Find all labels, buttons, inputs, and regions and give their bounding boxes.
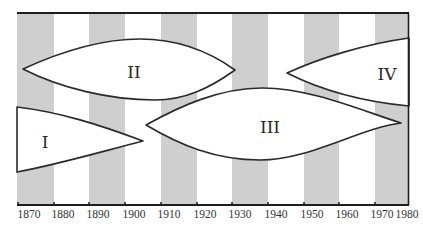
era-timeline-diagram: I II III IV 1870 1880 1890 1900 1910 192… <box>0 0 423 228</box>
tick-label-1930: 1930 <box>229 208 252 220</box>
x-axis: 1870 1880 1890 1900 1910 1920 1930 1940 … <box>17 202 419 220</box>
era-label-iii: III <box>260 117 280 137</box>
tick-label-1900: 1900 <box>123 208 146 220</box>
era-label-ii: II <box>127 62 140 82</box>
tick-label-1870: 1870 <box>18 208 41 220</box>
era-label-iv: IV <box>378 64 398 84</box>
tick-label-1890: 1890 <box>87 208 110 220</box>
tick-label-1960: 1960 <box>336 208 359 220</box>
era-label-i: I <box>42 132 49 152</box>
tick-label-1920: 1920 <box>194 208 217 220</box>
tick-label-1940: 1940 <box>265 208 288 220</box>
tick-label-1980: 1980 <box>396 208 419 220</box>
tick-label-1970: 1970 <box>371 208 394 220</box>
tick-label-1910: 1910 <box>158 208 181 220</box>
tick-label-1950: 1950 <box>301 208 324 220</box>
tick-label-1880: 1880 <box>52 208 75 220</box>
